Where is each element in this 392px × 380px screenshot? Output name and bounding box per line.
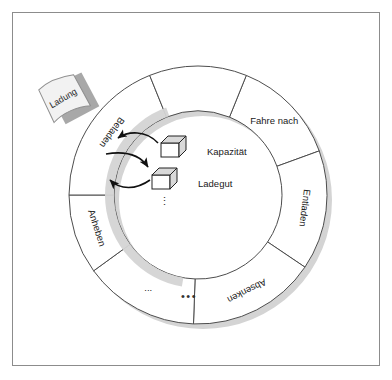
state-ring-diagram: Fahre nachEntladenAbsenken...AnhebenBela… — [0, 0, 392, 380]
center-item-ladegut[interactable]: Ladegut — [152, 168, 233, 189]
center-item-kapazitaet[interactable]: Kapazität — [161, 136, 247, 157]
center-items: KapazitätLadegut — [152, 136, 247, 189]
segment-label-ellipsis: ... — [144, 282, 152, 293]
ladung-note[interactable]: Ladung — [37, 68, 100, 129]
center-item-label-ladegut: Ladegut — [198, 178, 233, 189]
cube-front-face — [161, 143, 179, 157]
segment-label-fahre-nach: Fahre nach — [250, 115, 298, 126]
figure-root: Fahre nachEntladenAbsenken...AnhebenBela… — [0, 0, 392, 380]
bottom-segment-ellipsis: ••• — [181, 290, 197, 302]
cube-front-face — [152, 175, 170, 189]
center-vertical-ellipsis: ⋮ — [159, 195, 172, 207]
center-item-label-kapazitaet: Kapazität — [207, 146, 247, 157]
